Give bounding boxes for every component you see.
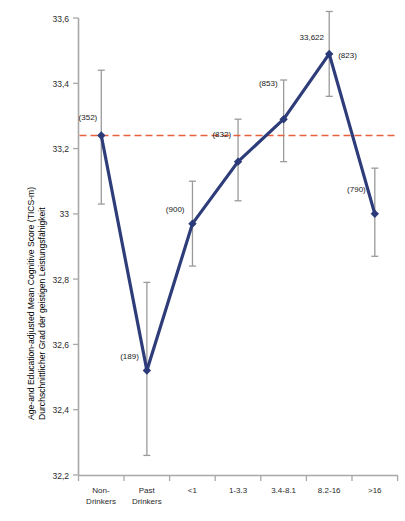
x-tick-label-0-line2: Drinkers (86, 497, 116, 506)
point-count-label: (790) (347, 185, 366, 194)
data-point-marker (143, 366, 151, 374)
plot-area (80, 11, 398, 455)
y-tick-label-32-2: 32,2 (52, 471, 69, 481)
point-count-label: (823) (338, 51, 357, 60)
x-axis-tick-labels: Non- Drinkers Past Drinkers <1 1-3.3 3.4… (86, 486, 382, 506)
point-count-label: (352) (79, 113, 98, 122)
y-tick-label-32-6: 32,6 (52, 340, 69, 350)
x-tick-label-6-line1: >16 (368, 486, 382, 495)
data-point-marker (97, 131, 105, 139)
cognitive-score-line-chart: Age-and Education-adjusted Mean Cognitiv… (0, 0, 405, 521)
y-tick-label-33: 33 (60, 209, 70, 219)
y-tick-label-32-4: 32,4 (52, 405, 69, 415)
point-count-label: (853) (259, 79, 278, 88)
point-count-label: (189) (120, 352, 139, 361)
y-tick-label-33-4: 33,4 (52, 79, 69, 89)
x-tick-label-4-line1: 3.4-8.1 (271, 486, 296, 495)
x-tick-label-1-line1: Past (139, 486, 156, 495)
x-tick-label-3-line1: 1-3.3 (229, 486, 248, 495)
x-tick-label-5-line1: 8.2-16 (318, 486, 341, 495)
point-count-label: (900) (166, 205, 185, 214)
y-axis-ticks (73, 18, 79, 475)
y-axis-title-line2: Durchschnittlicher Grad der geistigen Le… (37, 207, 47, 420)
x-tick-label-0-line1: Non- (92, 486, 110, 495)
series-line (101, 54, 375, 371)
peak-value-annotation: 33,622 (300, 33, 325, 42)
y-tick-label-33-6: 33,6 (52, 14, 69, 24)
x-tick-label-2-line1: <1 (188, 486, 198, 495)
x-tick-label-1-line2: Drinkers (132, 497, 162, 506)
y-axis-title-line1: Age-and Education-adjusted Mean Cognitiv… (26, 187, 36, 420)
data-point-marker (371, 210, 379, 218)
point-count-annotations: (352)(189)(900)(832)(853)(823)(790) (79, 51, 367, 361)
y-tick-label-32-8: 32,8 (52, 275, 69, 285)
y-tick-label-33-2: 33,2 (52, 144, 69, 154)
point-count-label: (832) (212, 130, 231, 139)
x-axis-ticks (79, 476, 398, 482)
